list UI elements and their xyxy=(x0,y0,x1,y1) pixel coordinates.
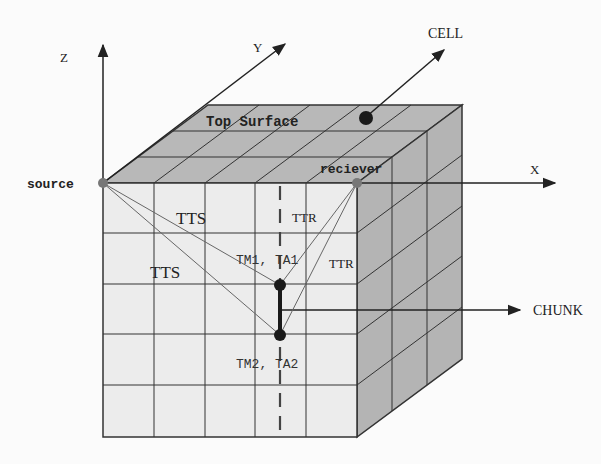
tm2-point xyxy=(274,329,286,341)
cell-point xyxy=(359,111,373,125)
ttr-upper-label: TTR xyxy=(292,210,317,225)
tm1-ta1-label: TM1, TA1 xyxy=(236,253,299,268)
ttr-right-label: TTR xyxy=(329,256,354,271)
cube-diagram: Z Y X CELL CHUNK Top Surface source reci… xyxy=(0,0,601,464)
tts-lower-label: TTS xyxy=(150,263,180,282)
source-point xyxy=(98,178,108,188)
y-axis-label: Y xyxy=(253,40,263,55)
chunk-label: CHUNK xyxy=(533,303,583,318)
top-surface-label: Top Surface xyxy=(206,114,298,130)
cell-label: CELL xyxy=(428,26,463,41)
receiver-label: reciever xyxy=(320,162,382,177)
receiver-point xyxy=(352,178,362,188)
z-axis-label: Z xyxy=(60,50,68,65)
source-label: source xyxy=(27,177,74,192)
tts-upper-label: TTS xyxy=(176,209,206,228)
tm1-point xyxy=(274,279,286,291)
tm2-ta2-label: TM2, TA2 xyxy=(236,357,298,372)
diagram-canvas: Z Y X CELL CHUNK Top Surface source reci… xyxy=(0,0,601,464)
x-axis-label: X xyxy=(530,162,540,177)
